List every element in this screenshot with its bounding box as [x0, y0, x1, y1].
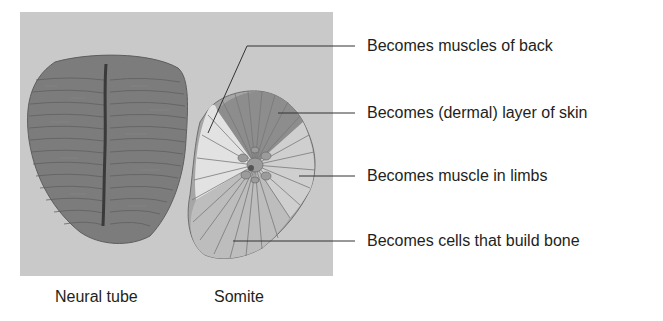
neural-tube-illustration: [28, 55, 188, 243]
caption-somite: Somite: [214, 288, 264, 306]
somite-illustration: [188, 91, 315, 259]
label-bone-cells: Becomes cells that build bone: [367, 232, 580, 250]
caption-neural-tube: Neural tube: [55, 288, 138, 306]
diagram-artwork: [0, 0, 663, 321]
label-back-muscles: Becomes muscles of back: [367, 37, 553, 55]
label-limb-muscle: Becomes muscle in limbs: [367, 167, 548, 185]
label-dermis: Becomes (dermal) layer of skin: [367, 104, 588, 122]
